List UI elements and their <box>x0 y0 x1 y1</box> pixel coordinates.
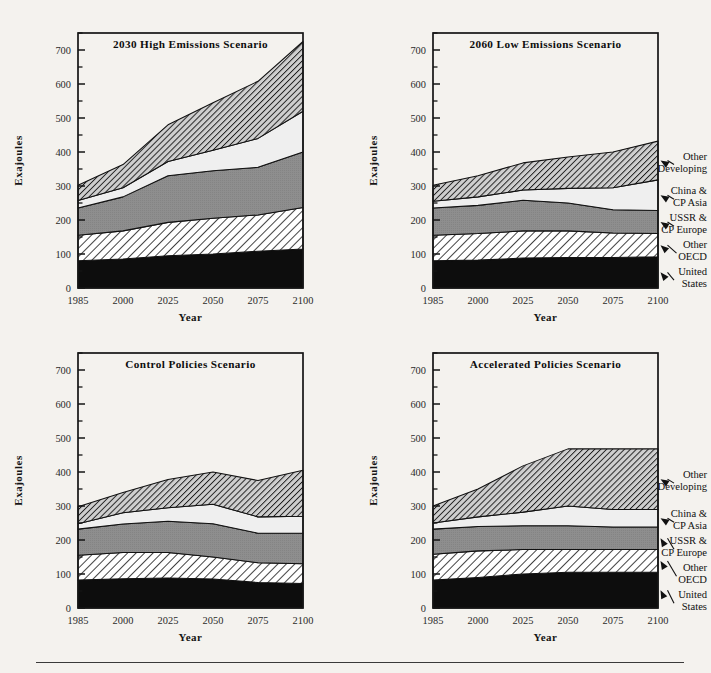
y-axis-title: Exajoules <box>12 135 24 186</box>
y-tick-label: 300 <box>55 501 71 512</box>
legend-leader-line <box>668 561 677 576</box>
legend-label-line1: Other <box>683 562 708 573</box>
y-axis-title: Exajoules <box>367 135 379 186</box>
y-tick-label: 300 <box>410 181 426 192</box>
x-axis: 198520002025205020752100 <box>423 295 669 306</box>
x-axis: 198520002025205020752100 <box>68 295 314 306</box>
y-tick-label: 200 <box>410 215 426 226</box>
band-united-states <box>433 257 658 288</box>
y-tick-label: 0 <box>66 603 71 614</box>
legend-label-line2: States <box>682 601 707 612</box>
chart-title: 2030 High Emissions Scenario <box>113 38 268 50</box>
x-tick-label: 2050 <box>558 295 579 306</box>
legend: OtherDevelopingChina &CP AsiaUSSR &CP Eu… <box>658 151 708 290</box>
legend-leader-line <box>668 272 675 280</box>
chart-title: Accelerated Policies Scenario <box>470 358 621 370</box>
legend-arrow-icon <box>661 245 670 253</box>
y-tick-label: 100 <box>410 569 426 580</box>
x-tick-label: 2000 <box>113 615 134 626</box>
x-tick-label: 2000 <box>468 295 489 306</box>
y-axis-title: Exajoules <box>367 455 379 506</box>
x-tick-label: 1985 <box>423 615 444 626</box>
x-tick-label: 1985 <box>68 615 89 626</box>
y-axis: 0100200300400500600700 <box>410 353 440 614</box>
y-tick-label: 400 <box>410 467 426 478</box>
y-tick-label: 400 <box>55 467 71 478</box>
x-axis-title: Year <box>534 631 558 643</box>
x-tick-label: 2100 <box>648 295 669 306</box>
chart-title: 2060 Low Emissions Scenario <box>469 38 621 50</box>
x-tick-label: 2075 <box>603 615 624 626</box>
x-tick-label: 2025 <box>158 295 179 306</box>
legend-arrow-icon <box>661 538 668 547</box>
x-tick-label: 1985 <box>423 295 444 306</box>
y-axis: 0100200300400500600700 <box>410 33 440 294</box>
chart-svg-wrap: 0100200300400500600700198520002025205020… <box>355 332 711 652</box>
legend-label-line1: Other <box>683 239 708 250</box>
y-tick-label: 600 <box>410 79 426 90</box>
legend: OtherDevelopingChina &CP AsiaUSSR &CP Eu… <box>658 469 708 612</box>
y-tick-label: 200 <box>410 535 426 546</box>
y-tick-label: 500 <box>410 433 426 444</box>
x-axis-title: Year <box>534 311 558 323</box>
legend-label-line2: CP Asia <box>673 197 707 208</box>
legend-label-line1: Other <box>683 151 708 162</box>
chart-panel-bottom-left: 0100200300400500600700198520002025205020… <box>0 332 356 652</box>
x-axis-title: Year <box>179 631 203 643</box>
y-tick-label: 400 <box>410 147 426 158</box>
y-tick-label: 100 <box>55 249 71 260</box>
x-tick-label: 2025 <box>513 295 534 306</box>
legend-label-line1: Other <box>683 469 708 480</box>
legend-label-line2: OECD <box>678 251 707 262</box>
x-tick-label: 2075 <box>248 615 269 626</box>
y-tick-label: 500 <box>55 433 71 444</box>
y-tick-label: 700 <box>410 45 426 56</box>
y-axis: 0100200300400500600700 <box>55 353 85 614</box>
chart-panel-bottom-right: 0100200300400500600700198520002025205020… <box>355 332 711 652</box>
y-axis: 0100200300400500600700 <box>55 33 85 294</box>
x-axis: 198520002025205020752100 <box>68 615 314 626</box>
y-tick-label: 600 <box>410 399 426 410</box>
x-tick-label: 1985 <box>68 295 89 306</box>
chart-panel-top-left: 0100200300400500600700198520002025205020… <box>0 12 356 332</box>
footer-divider-rule <box>36 662 684 663</box>
legend-label-line2: States <box>682 278 707 289</box>
legend-label-line2: CP Asia <box>673 520 707 531</box>
y-tick-label: 700 <box>55 45 71 56</box>
legend-label-line1: China & <box>671 185 708 196</box>
y-tick-label: 0 <box>66 283 71 294</box>
legend-arrow-icon <box>661 272 669 281</box>
y-tick-label: 100 <box>55 569 71 580</box>
y-tick-label: 100 <box>410 249 426 260</box>
y-tick-label: 200 <box>55 215 71 226</box>
band-other-oecd <box>433 231 658 261</box>
x-axis-title: Year <box>179 311 203 323</box>
x-tick-label: 2100 <box>293 615 314 626</box>
x-tick-label: 2025 <box>158 615 179 626</box>
x-axis: 198520002025205020752100 <box>423 615 669 626</box>
band-ussr-cp-europe <box>433 526 658 555</box>
chart-svg-wrap: 0100200300400500600700198520002025205020… <box>0 332 356 652</box>
y-tick-label: 0 <box>421 603 426 614</box>
y-tick-label: 300 <box>410 501 426 512</box>
x-tick-label: 2050 <box>203 295 224 306</box>
legend-arrow-icon <box>661 518 670 525</box>
y-tick-label: 200 <box>55 535 71 546</box>
y-tick-label: 600 <box>55 79 71 90</box>
legend-arrow-icon <box>661 561 668 570</box>
chart-svg-wrap: 0100200300400500600700198520002025205020… <box>0 12 356 332</box>
y-tick-label: 700 <box>410 365 426 376</box>
legend-arrow-icon <box>661 195 670 202</box>
legend-label-line2: CP Europe <box>661 547 707 558</box>
y-tick-label: 600 <box>55 399 71 410</box>
y-axis-title: Exajoules <box>12 455 24 506</box>
y-tick-label: 700 <box>55 365 71 376</box>
figure-page: 0100200300400500600700198520002025205020… <box>0 0 711 673</box>
x-tick-label: 2075 <box>603 295 624 306</box>
legend-label-line1: United <box>678 266 708 277</box>
chart-title: Control Policies Scenario <box>125 358 255 370</box>
chart-panel-top-right: 0100200300400500600700198520002025205020… <box>355 12 711 332</box>
y-tick-label: 300 <box>55 181 71 192</box>
legend-label-line1: USSR & <box>670 212 708 223</box>
legend-leader-line <box>668 245 677 253</box>
